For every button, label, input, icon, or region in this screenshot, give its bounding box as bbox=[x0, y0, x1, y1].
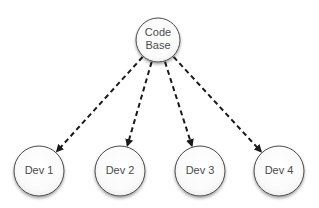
node-dev-2: Dev 2 bbox=[95, 146, 145, 196]
node-label: Code bbox=[145, 26, 171, 38]
node-label: Dev 3 bbox=[186, 164, 215, 176]
edge-code-base-to-dev-3 bbox=[165, 62, 192, 145]
node-dev-4: Dev 4 bbox=[254, 146, 304, 196]
edge-code-base-to-dev-2 bbox=[128, 62, 152, 145]
diagram-canvas: CodeBaseDev 1Dev 2Dev 3Dev 4 bbox=[0, 0, 319, 208]
nodes-group: CodeBaseDev 1Dev 2Dev 3Dev 4 bbox=[14, 18, 304, 196]
node-label: Dev 2 bbox=[106, 164, 135, 176]
node-label: Dev 1 bbox=[25, 164, 54, 176]
node-label: Base bbox=[145, 39, 170, 51]
edges-group bbox=[57, 57, 261, 151]
node-label: Dev 4 bbox=[265, 164, 294, 176]
node-code-base: CodeBase bbox=[136, 18, 180, 62]
node-dev-1: Dev 1 bbox=[14, 146, 64, 196]
node-dev-3: Dev 3 bbox=[175, 146, 225, 196]
edge-code-base-to-dev-4 bbox=[174, 57, 261, 151]
